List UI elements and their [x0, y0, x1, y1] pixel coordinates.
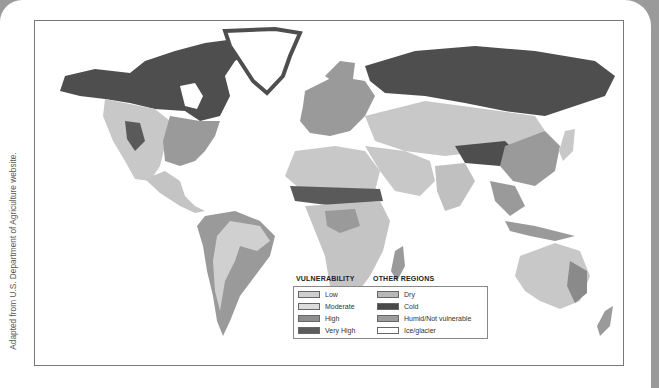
region-central-america — [145, 171, 205, 213]
swatch-very-high — [298, 327, 320, 334]
legend-box: Low Moderate High Very High Dry Cold Hum… — [293, 286, 488, 339]
region-africa-sahara — [285, 146, 380, 191]
legend-item-humid: Humid/Not vulnerable — [377, 313, 471, 323]
region-greenland — [225, 29, 300, 93]
region-russia-cold — [365, 46, 615, 116]
region-new-zealand — [597, 306, 613, 336]
swatch-dry — [377, 291, 399, 298]
legend-item-moderate: Moderate — [298, 301, 355, 311]
legend-item-high: High — [298, 313, 339, 323]
legend-label: Dry — [404, 291, 415, 298]
swatch-moderate — [298, 303, 320, 310]
legend-label: Very High — [325, 327, 355, 334]
swatch-low — [298, 291, 320, 298]
legend-label: Humid/Not vulnerable — [404, 315, 471, 322]
legend-item-dry: Dry — [377, 289, 415, 299]
swatch-humid — [377, 315, 399, 322]
legend-label: Ice/glacier — [404, 327, 436, 334]
swatch-high — [298, 315, 320, 322]
region-southeast-asia — [490, 181, 525, 216]
legend-item-low: Low — [298, 289, 338, 299]
legend-label: High — [325, 315, 339, 322]
region-japan — [559, 129, 575, 161]
region-india — [435, 163, 475, 211]
legend-item-ice: Ice/glacier — [377, 325, 436, 335]
region-europe — [300, 76, 375, 136]
legend-label: Moderate — [325, 303, 355, 310]
region-indonesia — [505, 221, 575, 241]
source-note: Adapted from U.S. Department of Agricult… — [8, 126, 18, 376]
legend-label: Low — [325, 291, 338, 298]
swatch-cold — [377, 303, 399, 310]
region-north-america-cold — [60, 39, 250, 121]
legend-title-vulnerability: VULNERABILITY — [296, 275, 355, 282]
legend-title-other-regions: OTHER REGIONS — [373, 275, 434, 282]
swatch-ice — [377, 327, 399, 334]
page-card: Adapted from U.S. Department of Agricult… — [0, 0, 651, 388]
legend-label: Cold — [404, 303, 418, 310]
legend-item-very-high: Very High — [298, 325, 355, 335]
region-north-america-east — [163, 116, 220, 166]
legend-item-cold: Cold — [377, 301, 418, 311]
